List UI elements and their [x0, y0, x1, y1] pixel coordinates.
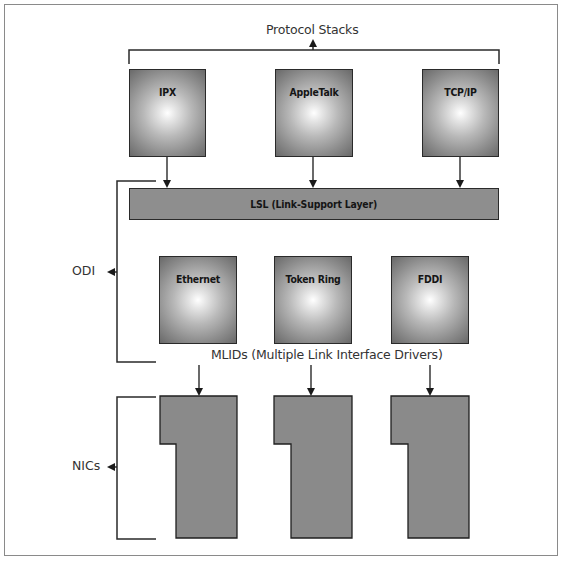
- protocol-label: TCP/IP: [429, 86, 493, 99]
- mlid-label: FDDI: [398, 273, 463, 286]
- nics-label: NICs: [72, 458, 100, 473]
- protocol-stacks-title: Protocol Stacks: [266, 22, 358, 37]
- lsl-layer-bar: LSL (Link-Support Layer): [129, 188, 499, 220]
- protocol-stacks-bracket: [129, 43, 499, 64]
- nic-card-2: [274, 396, 352, 538]
- protocol-box-appletalk: AppleTalk: [275, 69, 353, 157]
- mlid-label: Token Ring: [281, 273, 346, 286]
- nic-cards: [160, 396, 469, 538]
- mlids-caption: MLIDs (Multiple Link Interface Drivers): [211, 347, 443, 362]
- mlid-to-nic-arrows: [199, 365, 430, 392]
- protocol-label: AppleTalk: [282, 86, 347, 99]
- protocol-box-tcpip: TCP/IP: [422, 69, 499, 157]
- protocol-label: IPX: [136, 86, 200, 99]
- mlid-label: Ethernet: [166, 273, 231, 286]
- nic-card-3: [391, 396, 469, 538]
- nics-bracket: [111, 397, 156, 539]
- lsl-label: LSL (Link-Support Layer): [251, 198, 378, 211]
- odi-label: ODI: [72, 263, 95, 278]
- mlid-box-fddi: FDDI: [391, 256, 469, 344]
- mlid-box-ethernet: Ethernet: [159, 256, 237, 344]
- protocol-box-ipx: IPX: [129, 69, 206, 157]
- stack-to-lsl-arrows: [167, 157, 460, 184]
- mlid-box-token-ring: Token Ring: [274, 256, 352, 344]
- nic-card-1: [160, 396, 237, 538]
